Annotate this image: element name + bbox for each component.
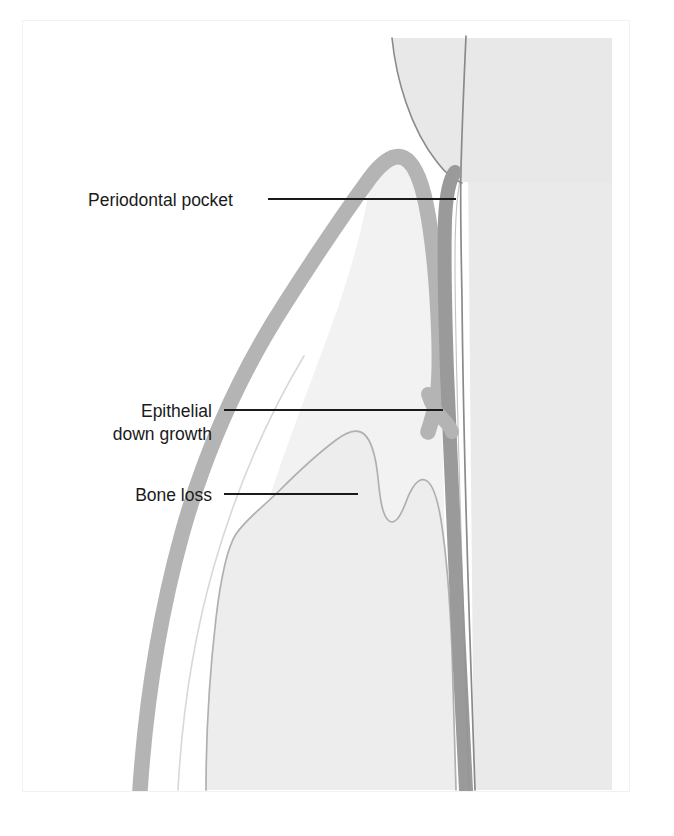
label-epithelial-down-growth-line2: down growth (113, 424, 212, 444)
label-epithelial-down-growth-line1: Epithelial (141, 401, 212, 421)
dental-cross-section-illustration: Periodontal pocket Epithelial down growt… (0, 0, 674, 836)
tooth-root-body (468, 168, 612, 790)
label-bone-loss: Bone loss (135, 485, 212, 505)
figure-root: Periodontal pocket Epithelial down growt… (0, 0, 674, 836)
tooth-crown (392, 38, 612, 182)
label-periodontal-pocket: Periodontal pocket (88, 190, 233, 210)
alveolar-bone (206, 431, 456, 790)
